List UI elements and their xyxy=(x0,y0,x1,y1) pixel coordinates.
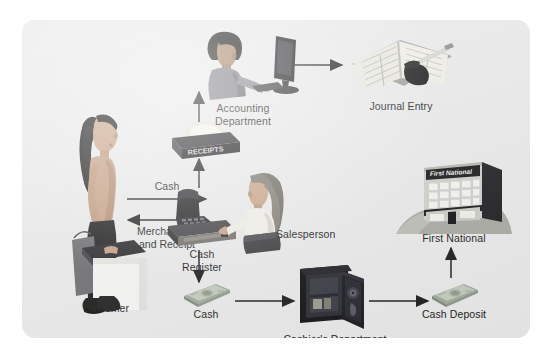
customer-label: Customer xyxy=(54,302,158,315)
salesperson-label: Salesperson xyxy=(276,228,346,241)
bank-building-icon: First National xyxy=(394,148,514,240)
diagram-panel: Customer Cash Merchandise and Receipt xyxy=(22,20,530,338)
cashiers-department-label: Cashier's Department xyxy=(256,333,414,338)
node-bank[interactable]: First National xyxy=(394,148,514,240)
journal-book-icon xyxy=(344,34,458,104)
customer-figure-icon xyxy=(60,106,150,316)
node-cashiers-department[interactable]: Cashier's Department xyxy=(294,263,374,333)
journal-entry-label: Journal Entry xyxy=(344,100,458,113)
node-accounting-department[interactable]: Accounting Department xyxy=(194,30,312,106)
safe-icon xyxy=(294,263,374,333)
node-cash[interactable]: Cash xyxy=(180,282,232,310)
cash-label: Cash xyxy=(172,308,240,321)
bank-label: First National xyxy=(402,232,506,245)
diagram-canvas: Customer Cash Merchandise and Receipt xyxy=(0,0,551,356)
cash-deposit-label: Cash Deposit xyxy=(406,308,502,321)
cash-stack-icon xyxy=(180,282,232,310)
node-customer[interactable]: Customer xyxy=(60,106,150,316)
node-journal-entry[interactable]: Journal Entry xyxy=(344,34,458,104)
node-cash-deposit[interactable]: Cash Deposit xyxy=(428,282,480,310)
accounting-department-label: Accounting Department xyxy=(198,102,288,127)
salesperson-figure-icon xyxy=(224,166,304,258)
accountant-at-computer-icon xyxy=(194,30,312,106)
cash-deposit-stack-icon xyxy=(428,282,480,310)
node-salesperson[interactable]: Salesperson xyxy=(224,166,304,258)
